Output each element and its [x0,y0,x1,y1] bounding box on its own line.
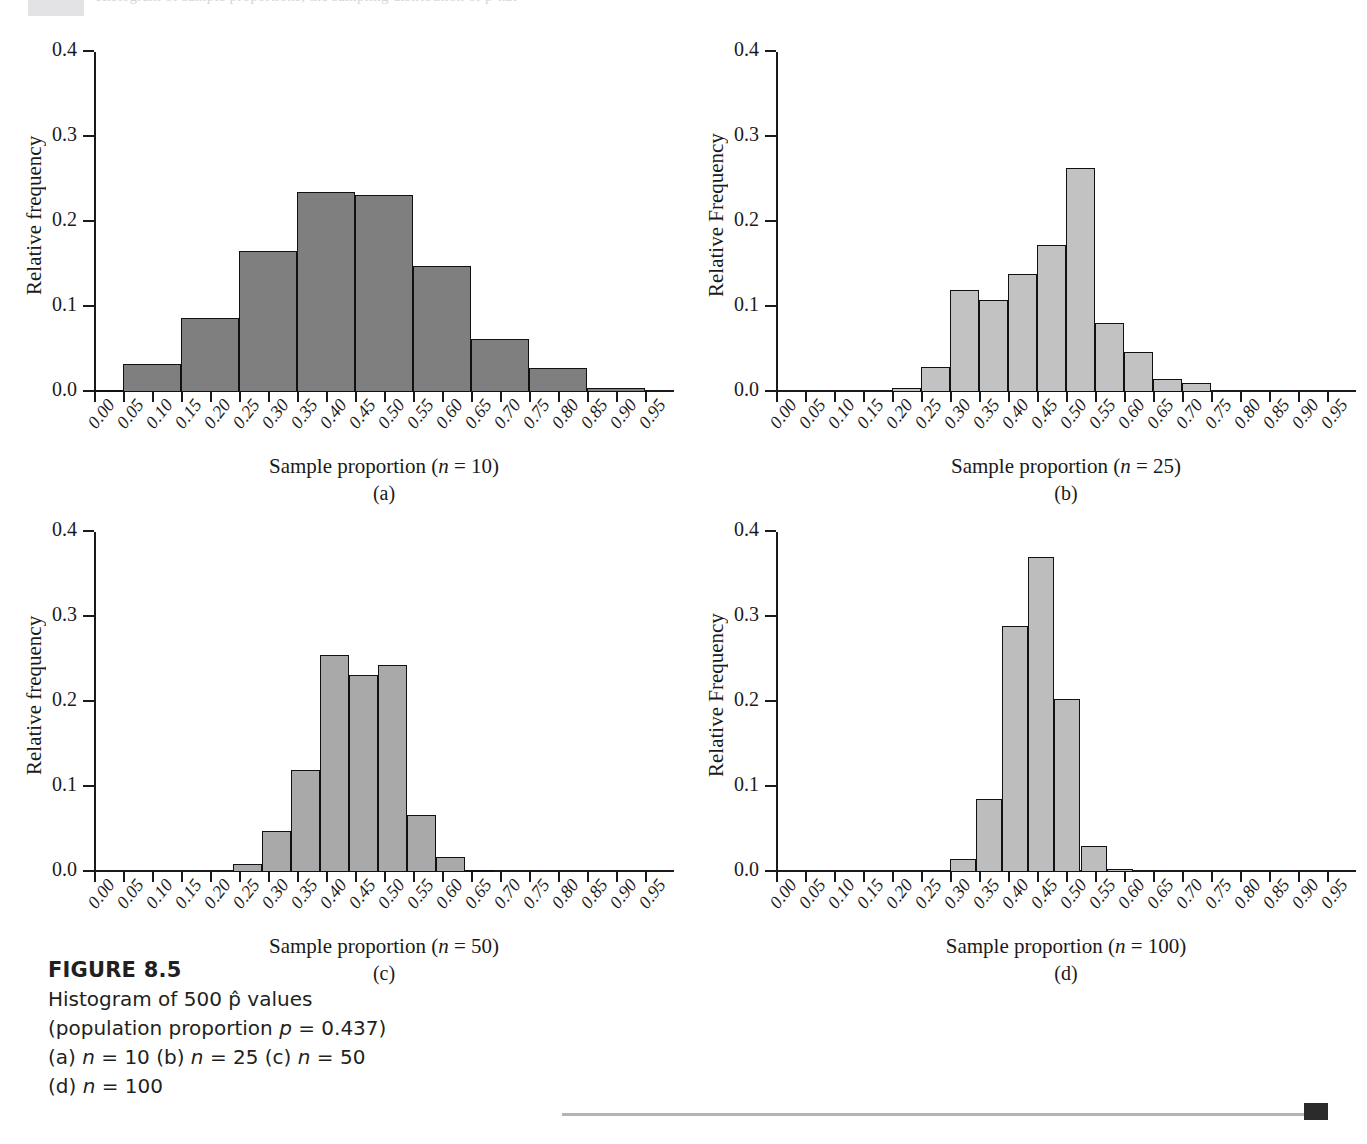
x-tick-label-b-4: 0.20 [882,396,916,432]
y-tick-a-3: 0.3 [83,135,94,137]
x-tick-c-10 [384,872,386,882]
histogram-bar [465,870,494,873]
x-tick-label-d-16: 0.80 [1230,876,1264,912]
y-tick-label-d-3: 0.3 [734,604,759,624]
figure-panel-grid: Relative frequency 0.00.10.20.30.40.000.… [0,30,1367,950]
x-tick-c-7 [297,872,299,882]
x-tick-c-2 [152,872,154,882]
y-tick-b-0: 0.0 [765,390,776,392]
y-tick-d-2: 0.2 [765,700,776,702]
histogram-bar [976,799,1002,872]
x-tick-label-a-14: 0.70 [490,396,524,432]
x-tick-label-c-15: 0.75 [519,876,553,912]
x-tick-label-d-14: 0.70 [1172,876,1206,912]
x-tick-label-d-0: 0.00 [766,876,800,912]
y-tick-label-b-0: 0.0 [734,379,759,399]
panel-letter-b: (b) [776,482,1356,505]
figure-caption-title: FIGURE 8.5 [48,956,608,985]
x-tick-d-17 [1269,872,1271,882]
histogram-bar [123,364,181,392]
plot-area-d: 0.00.10.20.30.40.000.050.100.150.200.250… [776,532,1356,872]
y-tick-c-3: 0.3 [83,615,94,617]
x-tick-label-a-9: 0.45 [345,396,379,432]
x-tick-label-d-19: 0.95 [1317,876,1351,912]
x-tick-d-2 [834,872,836,882]
x-tick-label-b-1: 0.05 [795,396,829,432]
x-tick-b-19 [1327,392,1329,402]
histogram-bar [979,300,1008,392]
x-tick-b-10 [1066,392,1068,402]
x-tick-label-c-7: 0.35 [287,876,321,912]
x-tick-label-c-0: 0.00 [84,876,118,912]
x-tick-b-9 [1037,392,1039,402]
x-tick-b-18 [1298,392,1300,402]
y-tick-d-0: 0.0 [765,870,776,872]
plot-area-c: 0.00.10.20.30.40.000.050.100.150.200.250… [94,532,674,872]
y-tick-d-3: 0.3 [765,615,776,617]
x-tick-label-c-8: 0.40 [316,876,350,912]
x-tick-a-4 [210,392,212,402]
y-tick-b-2: 0.2 [765,220,776,222]
x-tick-c-11 [413,872,415,882]
x-tick-label-b-10: 0.50 [1056,396,1090,432]
x-tick-a-1 [123,392,125,402]
x-tick-label-b-19: 0.95 [1317,396,1351,432]
y-tick-c-2: 0.2 [83,700,94,702]
y-tick-d-1: 0.1 [765,785,776,787]
x-axis-title-d: Sample proportion (n = 100) [776,934,1356,959]
x-tick-a-6 [268,392,270,402]
x-tick-label-b-14: 0.70 [1172,396,1206,432]
y-tick-a-2: 0.2 [83,220,94,222]
x-tick-c-9 [355,872,357,882]
x-tick-d-18 [1298,872,1300,882]
x-tick-label-d-12: 0.60 [1114,876,1148,912]
x-tick-d-5 [921,872,923,882]
x-tick-label-d-1: 0.05 [795,876,829,912]
histogram-bar [1153,379,1182,392]
x-tick-label-c-12: 0.60 [432,876,466,912]
top-scan-strip: Histogram of sample proportions; the sam… [0,0,1367,26]
histogram-bar [529,368,587,392]
x-axis-title-b: Sample proportion (n = 25) [776,454,1356,479]
clipped-header-text: Histogram of sample proportions; the sam… [96,0,517,5]
histogram-bar [1107,869,1133,872]
x-tick-c-16 [558,872,560,882]
histogram-bar [950,290,979,392]
x-tick-b-0 [776,392,778,402]
bar-series-a [94,52,674,392]
x-tick-label-d-15: 0.75 [1201,876,1235,912]
x-tick-label-c-18: 0.90 [606,876,640,912]
y-tick-label-b-3: 0.3 [734,124,759,144]
y-tick-label-b-4: 0.4 [734,39,759,59]
x-tick-a-11 [413,392,415,402]
x-tick-label-b-16: 0.80 [1230,396,1264,432]
histogram-bar [1002,626,1028,872]
y-axis-title-d: Relative Frequency [704,560,728,830]
x-tick-a-5 [239,392,241,402]
x-tick-label-b-11: 0.55 [1085,396,1119,432]
x-tick-b-1 [805,392,807,402]
panel-letter-d: (d) [776,962,1356,985]
x-tick-c-17 [587,872,589,882]
x-tick-label-b-0: 0.00 [766,396,800,432]
histogram-bar [355,195,413,392]
x-tick-label-a-4: 0.20 [200,396,234,432]
y-tick-label-c-3: 0.3 [52,604,77,624]
y-tick-b-4: 0.4 [765,50,776,52]
bar-series-d [776,532,1356,872]
x-tick-label-b-7: 0.35 [969,396,1003,432]
x-tick-b-8 [1008,392,1010,402]
x-tick-a-12 [442,392,444,402]
x-tick-label-a-19: 0.95 [635,396,669,432]
x-tick-d-16 [1240,872,1242,882]
x-tick-c-15 [529,872,531,882]
x-tick-b-12 [1124,392,1126,402]
y-tick-b-3: 0.3 [765,135,776,137]
histogram-bar [239,251,297,392]
x-tick-label-a-0: 0.00 [84,396,118,432]
x-tick-label-b-18: 0.90 [1288,396,1322,432]
x-axis-title-a: Sample proportion (n = 10) [94,454,674,479]
x-tick-label-d-2: 0.10 [824,876,858,912]
x-tick-d-19 [1327,872,1329,882]
x-tick-label-a-11: 0.55 [403,396,437,432]
